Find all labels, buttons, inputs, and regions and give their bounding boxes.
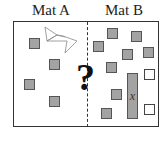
variable-x-tile: x [127,73,138,119]
mat-b-unit-tile [101,108,112,119]
mat-a-unit-tile [49,59,60,70]
mat-a-title: Mat A [32,2,70,18]
mat-b-unit-tile [107,28,118,39]
mat-a-unit-tile [29,38,40,49]
mat-b-white-unit-tile [144,69,155,80]
doodle-sketch-icon [43,25,79,55]
mat-b-unit-tile [111,89,122,100]
mat-b-unit-tile [131,31,142,42]
mat-b-unit-tile [106,62,117,73]
mat-b-white-unit-tile [144,104,155,115]
mat-a-unit-tile [49,96,60,107]
mat-b-unit-tile [122,49,133,60]
mat-a-unit-tile [24,79,35,90]
mat-b-title: Mat B [105,2,143,18]
variable-x-label: x [130,89,135,104]
mat-b-unit-tile [93,41,104,52]
question-mark: ? [76,58,95,96]
mat-b-unit-tile [143,47,154,58]
